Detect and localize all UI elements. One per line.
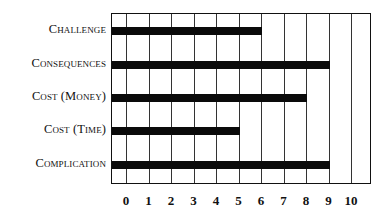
x-tick-label: 0 — [123, 193, 130, 209]
x-tick-label: 3 — [190, 193, 197, 209]
gridline-x-10 — [351, 14, 352, 183]
x-tick-label: 8 — [303, 193, 310, 209]
bar-cost-money — [112, 94, 307, 102]
bar-cost-time — [112, 127, 240, 135]
x-tick-label: 7 — [280, 193, 287, 209]
category-label: Consequences — [31, 56, 106, 70]
x-tick-label: 5 — [235, 193, 242, 209]
category-label: Cost (Time) — [44, 122, 106, 136]
horizontal-bar-chart: ChallengeConsequencesCost (Money)Cost (T… — [0, 0, 389, 224]
x-tick-label: 6 — [258, 193, 265, 209]
chart-grid — [111, 13, 371, 184]
category-label: Complication — [35, 156, 106, 170]
bar-consequences — [112, 61, 330, 69]
gridline-x-9 — [329, 14, 330, 183]
category-label: Cost (Money) — [32, 89, 106, 103]
x-tick-label: 4 — [213, 193, 220, 209]
x-tick-label: 10 — [345, 193, 358, 209]
x-tick-label: 9 — [325, 193, 332, 209]
bar-complication — [112, 161, 330, 169]
x-tick-label: 2 — [168, 193, 175, 209]
category-label: Challenge — [49, 22, 106, 36]
bar-challenge — [112, 27, 262, 35]
x-tick-label: 1 — [145, 193, 152, 209]
